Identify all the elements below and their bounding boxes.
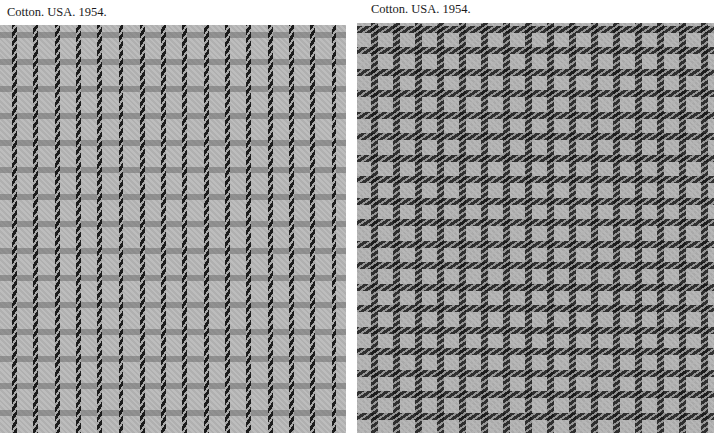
caption-right: Cotton. USA. 1954.: [371, 2, 471, 16]
caption-left: Cotton. USA. 1954.: [7, 5, 107, 19]
fabric-photo-check-grid: [357, 23, 714, 433]
fabric-photo-vertical-stripe: [0, 25, 346, 433]
